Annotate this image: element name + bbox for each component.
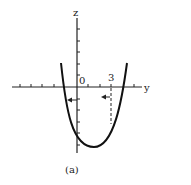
parabola-curve (61, 63, 127, 147)
y-axis-label: y (143, 82, 150, 93)
value-3-label: 3 (108, 72, 114, 83)
figure-caption: (a) (65, 164, 79, 175)
parabola-diagram: z y 0 3 (a) (0, 0, 191, 185)
origin-label: 0 (79, 75, 85, 86)
z-axis-label: z (73, 7, 78, 18)
left-arrow-icon (67, 98, 77, 103)
left-arrow-icon (101, 95, 110, 100)
